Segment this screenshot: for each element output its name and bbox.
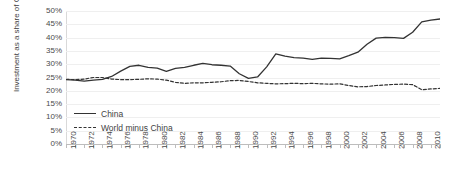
investment-share-line-chart: Investment as a share of GDP 50%45%40%35… xyxy=(0,0,450,183)
x-tick-mark xyxy=(285,145,286,148)
x-tick-label: 2010 xyxy=(434,131,442,149)
x-tick-mark xyxy=(175,145,176,148)
x-tick-label: 1986 xyxy=(215,131,223,149)
x-tick-label: 2008 xyxy=(416,131,424,149)
x-tick-mark xyxy=(376,145,377,148)
x-tick-mark xyxy=(303,145,304,148)
x-tick-mark xyxy=(121,145,122,148)
legend-item-china: China xyxy=(74,107,173,121)
y-axis-tick-labels: 50%45%40%35%30%25%20%15%10%5%0% xyxy=(20,0,62,150)
x-tick-mark xyxy=(321,145,322,148)
x-tick-mark xyxy=(157,145,158,148)
legend-label: World minus China xyxy=(101,123,173,133)
y-tick-label: 10% xyxy=(20,113,62,121)
y-tick-label: 15% xyxy=(20,100,62,108)
legend: China World minus China xyxy=(74,107,173,135)
y-tick-label: 30% xyxy=(20,60,62,68)
x-tick-mark xyxy=(84,145,85,148)
legend-swatch-solid-icon xyxy=(74,110,96,118)
x-tick-mark xyxy=(340,145,341,148)
x-tick-mark xyxy=(102,145,103,148)
x-tick-label: 1984 xyxy=(197,131,205,149)
x-tick-mark xyxy=(230,145,231,148)
x-tick-mark xyxy=(194,145,195,148)
y-tick-label: 35% xyxy=(20,47,62,55)
x-tick-mark xyxy=(139,145,140,148)
y-tick-label: 5% xyxy=(20,127,62,135)
x-tick-label: 1992 xyxy=(270,131,278,149)
x-tick-mark xyxy=(248,145,249,148)
y-tick-label: 50% xyxy=(20,7,62,15)
y-tick-label: 45% xyxy=(20,20,62,28)
x-tick-label: 2002 xyxy=(361,131,369,149)
x-tick-label: 1982 xyxy=(179,131,187,149)
y-tick-label: 25% xyxy=(20,74,62,82)
x-tick-label: 2000 xyxy=(343,131,351,149)
x-tick-mark xyxy=(413,145,414,148)
x-tick-label: 1998 xyxy=(325,131,333,149)
legend-swatch-dashed-icon xyxy=(74,124,96,132)
x-tick-mark xyxy=(358,145,359,148)
x-tick-label: 1996 xyxy=(307,131,315,149)
legend-item-world-minus-china: World minus China xyxy=(74,121,173,135)
x-tick-mark xyxy=(394,145,395,148)
x-tick-label: 2006 xyxy=(398,131,406,149)
x-tick-mark xyxy=(66,145,67,148)
x-tick-label: 1990 xyxy=(252,131,260,149)
x-tick-label: 1994 xyxy=(288,131,296,149)
series-line-china xyxy=(66,19,440,81)
x-tick-label: 1988 xyxy=(234,131,242,149)
x-tick-mark xyxy=(212,145,213,148)
x-tick-mark xyxy=(431,145,432,148)
legend-label: China xyxy=(101,109,123,119)
y-tick-label: 20% xyxy=(20,87,62,95)
series-line-world-minus-china xyxy=(66,78,440,90)
y-tick-label: 0% xyxy=(20,140,62,148)
y-tick-label: 40% xyxy=(20,34,62,42)
x-tick-mark xyxy=(267,145,268,148)
x-axis-tick-labels: 1970197219741976197819801982198419861988… xyxy=(66,149,441,183)
x-tick-label: 2004 xyxy=(380,131,388,149)
